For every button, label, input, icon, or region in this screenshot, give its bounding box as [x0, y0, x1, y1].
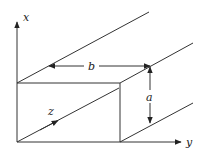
waveguide-diagram: x y z b a — [0, 0, 204, 153]
y-axis-label: y — [185, 136, 193, 149]
oblique-edge-top-right — [120, 43, 193, 83]
oblique-edge-bottom-right — [120, 103, 193, 142]
oblique-edge-top-left — [17, 12, 149, 83]
z-axis-label: z — [47, 105, 54, 118]
dimension-a-label: a — [146, 91, 153, 104]
z-axis-line — [17, 88, 119, 142]
z-axis-arrow — [40, 121, 58, 131]
x-axis-label: x — [23, 11, 30, 24]
dimension-b-label: b — [88, 60, 95, 73]
